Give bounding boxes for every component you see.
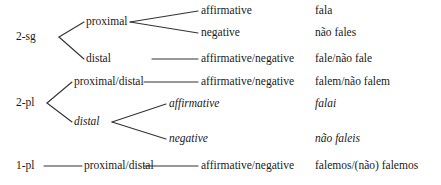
node-form-fale-nao-fale: fale/não fale — [315, 53, 372, 65]
node-form-fala: fala — [315, 5, 332, 17]
edge-2pl-to-proximal-distal — [47, 82, 72, 103]
node-person-2sg: 2-sg — [16, 31, 36, 43]
edge-2sg-proximal-to-negative — [130, 22, 198, 33]
edge-2pl-distal-to-affirmative — [112, 104, 166, 122]
node-polarity-2pl-distal-affirmative: affirmative — [169, 98, 219, 110]
node-form-falai: falai — [315, 98, 336, 110]
node-person-1pl: 1-pl — [16, 160, 35, 172]
node-deixis-2sg-proximal: proximal — [86, 16, 128, 28]
node-polarity-2sg-distal: affirmative/negative — [201, 53, 294, 65]
node-polarity-1pl-proximal-distal: affirmative/negative — [201, 160, 294, 172]
node-form-nao-fales: não fales — [315, 27, 356, 39]
node-polarity-2pl-distal-negative: negative — [169, 133, 208, 145]
node-deixis-2sg-distal: distal — [86, 53, 111, 65]
edge-2sg-to-proximal — [59, 22, 84, 37]
edge-2pl-to-distal — [47, 103, 72, 122]
node-form-falem-nao-falem: falem/não falem — [315, 76, 390, 88]
node-polarity-2sg-proximal-affirmative: affirmative — [201, 5, 252, 17]
edge-2pl-distal-to-negative — [112, 122, 166, 139]
node-person-2pl: 2-pl — [16, 97, 35, 109]
node-form-nao-faleis: não faleis — [315, 133, 360, 145]
imperative-tree-diagram: 2-sg 2-pl 1-pl proximal distal proximal/… — [0, 0, 441, 185]
node-polarity-2sg-proximal-negative: negative — [201, 27, 240, 39]
node-deixis-1pl-proximal-distal: proximal/distal — [84, 160, 154, 172]
node-form-falemos: falemos/(não) falemos — [315, 160, 418, 172]
node-polarity-2pl-proximal-distal: affirmative/negative — [201, 76, 294, 88]
edge-2sg-to-distal — [59, 37, 84, 59]
node-deixis-2pl-proximal-distal: proximal/distal — [74, 76, 144, 88]
edge-2sg-proximal-to-affirmative — [130, 11, 198, 22]
node-deixis-2pl-distal: distal — [74, 116, 100, 128]
